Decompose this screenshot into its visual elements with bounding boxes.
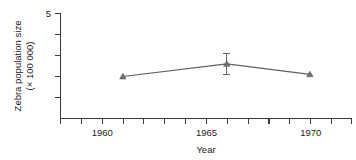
x-tick-label-1965: 1965: [196, 127, 217, 138]
zebra-population-line-chart: 5 Zebra population size (× 100 000): [0, 0, 356, 160]
chart-container: 5 Zebra population size (× 100 000): [0, 0, 356, 160]
y-tick-label-5: 5: [46, 8, 51, 19]
y-axis-title-line2: (× 100 000): [24, 42, 35, 91]
x-tick-label-1960: 1960: [92, 127, 113, 138]
x-tick-label-1970: 1970: [300, 127, 321, 138]
x-axis-title: Year: [196, 144, 215, 155]
y-axis-title-line1: Zebra population size: [12, 21, 23, 112]
